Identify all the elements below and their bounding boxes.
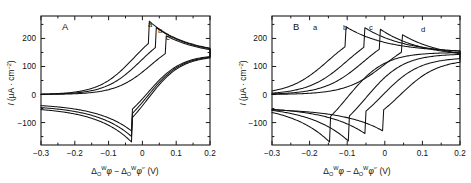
x-title-sub-1: O <box>97 171 102 177</box>
y-title-unit-open: (µA · cm <box>6 70 16 104</box>
curve-label-c: c <box>166 33 170 42</box>
y-tick-label: 0 <box>262 91 267 100</box>
x-tick-label: −0.1 <box>339 149 356 158</box>
panel-a-plot: A abc −0.3−0.2−0.100.10.2 −1000100200 I … <box>0 0 235 183</box>
curve-label-d: d <box>421 25 425 34</box>
x-tick-label: 0 <box>140 149 145 158</box>
y-tick-label: −100 <box>18 119 37 128</box>
y-title-unit-open: (µA · cm <box>238 70 248 104</box>
x-tick-label: 0.2 <box>454 149 466 158</box>
y-title-unit-close: ) <box>238 60 248 63</box>
panel-b: B abcd −0.3−0.2−0.100.10.2 −1000100200 I… <box>235 0 471 183</box>
x-title-unit: (V) <box>377 166 391 176</box>
svg-text:I (µA · cm−2): I (µA · cm−2) <box>238 60 248 105</box>
panel-b-letter: B <box>293 21 299 32</box>
x-title-sub-2: O <box>127 171 132 177</box>
x-tick-label: 0 <box>383 149 388 158</box>
y-tick-label: 200 <box>22 34 36 43</box>
x-tick-label: −0.2 <box>67 149 84 158</box>
curve-label-b: b <box>343 23 347 32</box>
x-tick-label: 0.1 <box>417 149 429 158</box>
cyclic-voltammetry-figure: A abc −0.3−0.2−0.100.10.2 −1000100200 I … <box>0 0 471 183</box>
cv-curve-a <box>272 27 460 142</box>
x-tick-label: −0.2 <box>302 149 319 158</box>
panel-b-plot: B abcd −0.3−0.2−0.100.10.2 −1000100200 I… <box>235 0 471 183</box>
svg-text:I (µA · cm−2): I (µA · cm−2) <box>6 60 16 105</box>
x-tick-label: −0.3 <box>33 149 50 158</box>
x-tick-label: −0.1 <box>101 149 118 158</box>
x-title-unit: (V) <box>145 166 159 176</box>
panel-a-letter: A <box>62 21 69 32</box>
curve-label-a: a <box>313 23 318 32</box>
x-title-minus: − <box>344 166 353 176</box>
y-title-unit-close: ) <box>6 60 16 63</box>
cv-curve-b <box>272 28 460 141</box>
x-tick-label: −0.3 <box>264 149 281 158</box>
x-title-minus: − <box>112 166 121 176</box>
cv-curve-a <box>41 21 210 131</box>
panel-a-x-axis-title: ΔOWφ − ΔOWφ°′ (V) <box>91 165 159 177</box>
x-title-sub-1: O <box>329 171 334 177</box>
curve-label-b: b <box>158 26 162 35</box>
x-tick-label: 0.1 <box>171 149 183 158</box>
x-tick-label: 0.2 <box>204 149 216 158</box>
curve-label-c: c <box>369 23 373 32</box>
y-tick-label: 100 <box>22 62 36 71</box>
y-tick-label: 100 <box>253 62 267 71</box>
panel-a: A abc −0.3−0.2−0.100.10.2 −1000100200 I … <box>0 0 235 183</box>
x-title-sub-2: O <box>359 171 364 177</box>
panel-b-y-axis-title: I (µA · cm−2) <box>238 60 248 105</box>
y-tick-label: 0 <box>31 91 36 100</box>
panel-a-y-axis-title: I (µA · cm−2) <box>6 60 16 105</box>
panel-b-x-axis-title: ΔOWφ − ΔOWφ°′ (V) <box>323 165 391 177</box>
y-tick-label: 200 <box>253 34 267 43</box>
svg-text:ΔOWφ − ΔOWφ°′ (V): ΔOWφ − ΔOWφ°′ (V) <box>323 165 391 177</box>
cv-curve-c <box>41 36 210 142</box>
svg-text:ΔOWφ − ΔOWφ°′ (V): ΔOWφ − ΔOWφ°′ (V) <box>91 165 159 177</box>
y-tick-label: −100 <box>249 119 268 128</box>
curve-label-a: a <box>148 20 153 29</box>
